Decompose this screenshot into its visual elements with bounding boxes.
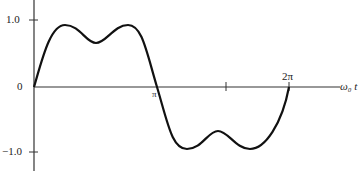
x-label-2pi: 2π — [282, 70, 293, 82]
chart: 1.0 0 −1.0 π 2π ω₀ t — [0, 0, 359, 171]
x-axis-label: ω₀ t — [340, 80, 357, 92]
y-label-neg1: −1.0 — [2, 145, 22, 157]
x-label-pi: π — [152, 89, 157, 99]
y-label-0: 0 — [17, 80, 23, 92]
y-label-1: 1.0 — [6, 13, 20, 25]
plot-area — [0, 0, 359, 171]
